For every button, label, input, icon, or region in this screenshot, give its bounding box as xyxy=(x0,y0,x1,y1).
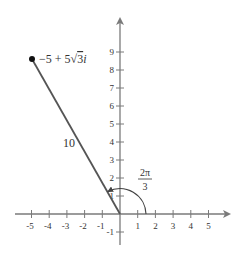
y-tick-label: 7 xyxy=(110,83,115,93)
y-tick-label: 5 xyxy=(110,119,115,129)
x-tick-label: -1 xyxy=(97,221,105,231)
y-tick-label: 3 xyxy=(110,155,115,165)
modulus-label: 10 xyxy=(63,136,75,150)
angle-denominator: 3 xyxy=(143,181,148,192)
y-tick-label: 8 xyxy=(110,65,115,75)
x-axis-tick-labels: -5 -4 -3 -2 -1 1 2 3 4 5 xyxy=(26,221,211,231)
y-tick-label: -1 xyxy=(107,227,115,237)
x-tick-label: 3 xyxy=(171,221,176,231)
x-tick-label: 2 xyxy=(153,221,158,231)
complex-plane-diagram: -5 -4 -3 -2 -1 1 2 3 4 5 -1 1 2 xyxy=(0,0,242,254)
y-tick-label: 9 xyxy=(110,47,115,57)
y-tick-label: 4 xyxy=(110,137,115,147)
x-tick-label: 4 xyxy=(189,221,194,231)
complex-point xyxy=(29,56,35,62)
x-tick-label: 1 xyxy=(135,221,140,231)
point-label: −5 + 5√3i xyxy=(39,52,86,66)
y-axis-tick-labels: -1 1 2 3 4 5 6 7 8 9 xyxy=(107,47,115,237)
modulus-segment xyxy=(32,59,120,214)
x-tick-label: -5 xyxy=(26,221,34,231)
angle-numerator: 2π xyxy=(140,167,150,178)
x-tick-label: 5 xyxy=(206,221,211,231)
x-tick-label: -3 xyxy=(62,221,70,231)
x-tick-label: -4 xyxy=(44,221,52,231)
y-tick-label: 6 xyxy=(110,101,115,111)
y-tick-label: 2 xyxy=(110,173,115,183)
angle-label: 2π 3 xyxy=(138,167,152,192)
x-tick-label: -2 xyxy=(79,221,87,231)
